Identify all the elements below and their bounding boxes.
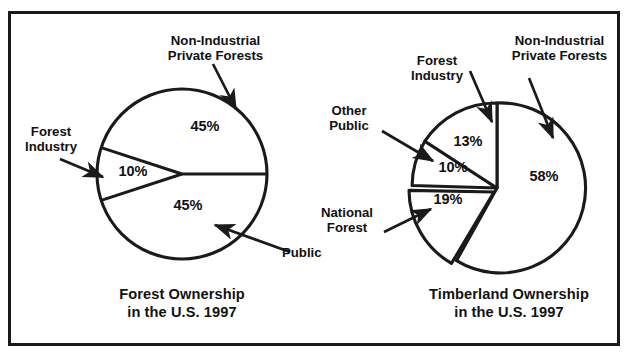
right-callout-forest-industry-line1: Forest — [417, 53, 457, 68]
left-value-forest-industry: 10% — [105, 163, 161, 179]
right-callout-national-forest: NationalForest — [311, 206, 383, 236]
right-chart-caption-line1: Timberland Ownership — [429, 286, 589, 302]
right-callout-non-industrial-line1: Non-Industrial — [515, 33, 604, 48]
figure-canvas: Non-IndustrialPrivate Forests ForestIndu… — [0, 0, 641, 357]
right-callout-other-public-line2: Public — [329, 118, 369, 133]
left-callout-public: Public — [282, 246, 342, 261]
right-callout-non-industrial: Non-IndustrialPrivate Forests — [487, 34, 632, 64]
right-chart-caption: Timberland Ownershipin the U.S. 1997 — [400, 286, 618, 321]
left-callout-non-industrial-line1: Non-Industrial — [171, 33, 260, 48]
left-chart-caption: Forest Ownershipin the U.S. 1997 — [82, 286, 282, 321]
right-callout-other-public: OtherPublic — [318, 104, 380, 134]
right-callout-forest-industry: ForestIndustry — [397, 54, 477, 84]
left-callout-forest-industry-line2: Industry — [25, 139, 77, 154]
right-value-non-industrial: 58% — [516, 168, 572, 184]
right-value-national-forest: 19% — [420, 191, 476, 207]
left-value-non-industrial: 45% — [175, 118, 235, 134]
right-chart-caption-line2: in the U.S. 1997 — [454, 304, 563, 320]
left-callout-forest-industry-line1: Forest — [31, 124, 71, 139]
left-callout-forest-industry: ForestIndustry — [12, 125, 90, 155]
right-value-other-public: 10% — [425, 159, 481, 175]
right-callout-forest-industry-line2: Industry — [411, 68, 463, 83]
right-callout-non-industrial-line2: Private Forests — [512, 48, 607, 63]
right-callout-other-public-line1: Other — [331, 103, 366, 118]
right-value-forest-industry: 13% — [440, 133, 496, 149]
left-value-public: 45% — [158, 197, 218, 213]
left-chart-caption-line2: in the U.S. 1997 — [127, 304, 236, 320]
left-callout-non-industrial: Non-IndustrialPrivate Forests — [143, 34, 288, 64]
right-callout-national-forest-line2: Forest — [327, 220, 367, 235]
right-callout-national-forest-line1: National — [321, 205, 373, 220]
left-callout-non-industrial-line2: Private Forests — [168, 48, 263, 63]
left-chart-caption-line1: Forest Ownership — [119, 286, 245, 302]
